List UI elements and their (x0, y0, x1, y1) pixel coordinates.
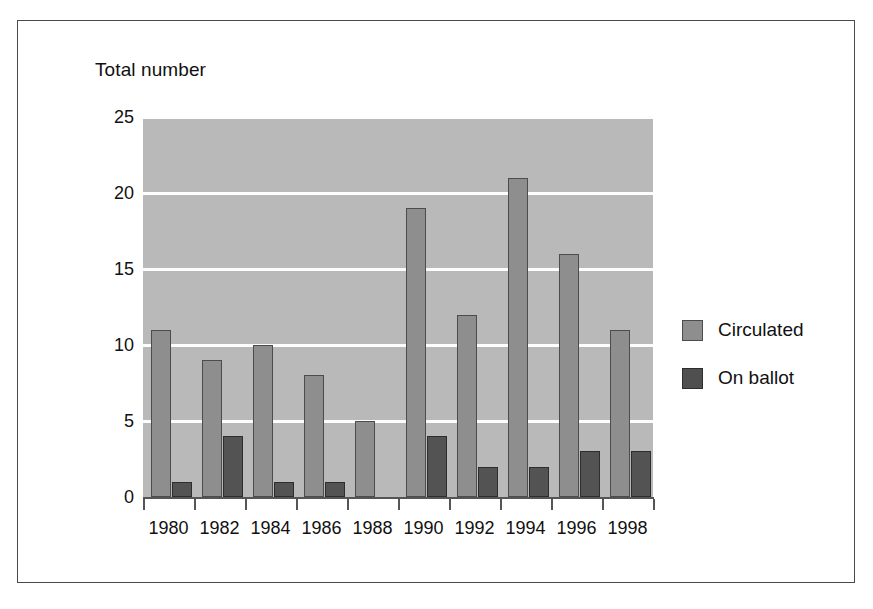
bar-on-ballot-1986 (325, 482, 345, 497)
x-axis-tick-label: 1998 (607, 518, 647, 539)
circulated-swatch (682, 320, 703, 341)
y-axis-tick-label: 20 (94, 183, 134, 204)
legend-item: Circulated (682, 312, 804, 348)
x-axis-tick-label: 1980 (148, 518, 188, 539)
x-axis-tick (551, 499, 553, 510)
legend-label: On ballot (718, 367, 794, 389)
bar-circulated-1980 (151, 330, 171, 497)
bar-group (296, 117, 347, 497)
bar-group (551, 117, 602, 497)
bar-group (347, 117, 398, 497)
legend-item: On ballot (682, 360, 804, 396)
plot-region (143, 117, 653, 497)
bar-circulated-1988 (355, 421, 375, 497)
x-axis-tick-label: 1990 (403, 518, 443, 539)
bar-group (500, 117, 551, 497)
y-axis-tick-label: 25 (94, 107, 134, 128)
bar-circulated-1994 (508, 178, 528, 497)
y-axis-tick-label: 15 (94, 259, 134, 280)
bar-chart: Total number 0510152025 1980198219841986… (18, 21, 856, 584)
bar-on-ballot-1982 (223, 436, 243, 497)
x-axis-tick (194, 499, 196, 510)
x-axis-tick (653, 499, 655, 510)
bar-on-ballot-1990 (427, 436, 447, 497)
x-axis-tick-label: 1994 (505, 518, 545, 539)
x-axis-tick (449, 499, 451, 510)
x-axis-tick (602, 499, 604, 510)
bar-circulated-1996 (559, 254, 579, 497)
x-axis-tick-label: 1992 (454, 518, 494, 539)
figure-frame: Total number 0510152025 1980198219841986… (17, 20, 855, 583)
x-axis-tick (500, 499, 502, 510)
bar-circulated-1992 (457, 315, 477, 497)
legend-label: Circulated (718, 319, 804, 341)
bar-on-ballot-1992 (478, 467, 498, 497)
x-axis-tick (347, 499, 349, 510)
x-axis-tick-label: 1996 (556, 518, 596, 539)
x-axis-tick-label: 1984 (250, 518, 290, 539)
y-axis-tick-label: 10 (94, 335, 134, 356)
bar-group (449, 117, 500, 497)
y-axis-tick-labels: 0510152025 (88, 117, 134, 497)
y-axis-tick-label: 0 (94, 487, 134, 508)
x-axis-tick (245, 499, 247, 510)
bar-circulated-1990 (406, 208, 426, 497)
bar-on-ballot-1980 (172, 482, 192, 497)
bar-circulated-1984 (253, 345, 273, 497)
bar-circulated-1986 (304, 375, 324, 497)
bar-on-ballot-1998 (631, 451, 651, 497)
x-axis-tick (143, 499, 145, 510)
chart-legend: CirculatedOn ballot (682, 312, 804, 408)
bar-group (194, 117, 245, 497)
y-axis-title: Total number (95, 59, 206, 81)
bar-group (602, 117, 653, 497)
bar-on-ballot-1996 (580, 451, 600, 497)
bar-circulated-1982 (202, 360, 222, 497)
onballot-swatch (682, 368, 703, 389)
bar-on-ballot-1994 (529, 467, 549, 497)
x-axis-tick-label: 1982 (199, 518, 239, 539)
bar-circulated-1998 (610, 330, 630, 497)
y-axis-tick-label: 5 (94, 411, 134, 432)
x-axis-tick-label: 1986 (301, 518, 341, 539)
bar-on-ballot-1984 (274, 482, 294, 497)
bar-group (143, 117, 194, 497)
bar-group (398, 117, 449, 497)
x-axis-tick (398, 499, 400, 510)
x-axis-tick-label: 1988 (352, 518, 392, 539)
x-axis-tick (296, 499, 298, 510)
bar-group (245, 117, 296, 497)
